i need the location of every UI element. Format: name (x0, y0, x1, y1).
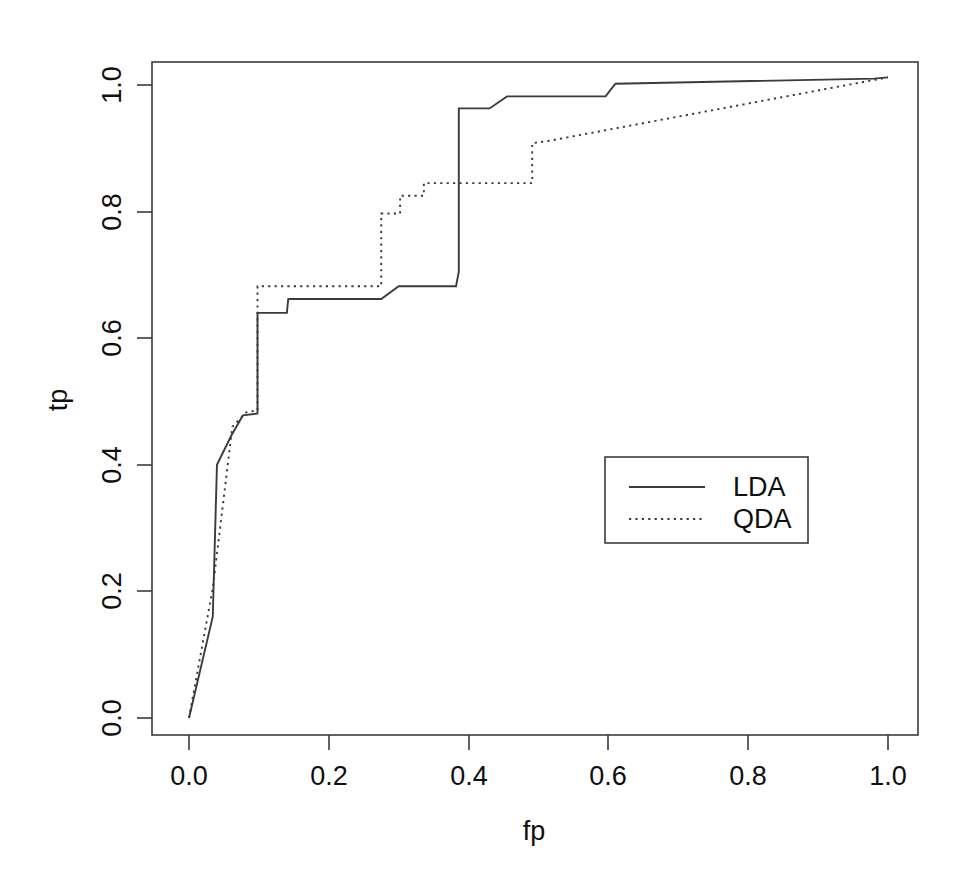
x-axis: 0.0 0.2 0.4 0.6 0.8 1.0 fp (170, 735, 907, 846)
x-tick-label: 1.0 (869, 761, 907, 791)
y-tick-label: 0.6 (97, 319, 127, 357)
y-tick-label: 0.8 (97, 193, 127, 231)
y-axis: 0.0 0.2 0.4 0.6 0.8 1.0 tp (43, 66, 152, 737)
legend: LDA QDA (605, 457, 808, 543)
x-tick-label: 0.0 (170, 761, 208, 791)
legend-label-lda: LDA (733, 472, 786, 502)
x-tick-label: 0.4 (450, 761, 488, 791)
y-tick-label: 0.0 (97, 699, 127, 737)
plot-frame (152, 62, 918, 735)
x-axis-title: fp (523, 816, 546, 846)
y-tick-label: 0.2 (97, 572, 127, 610)
legend-label-qda: QDA (733, 504, 792, 534)
series-line-lda (189, 77, 888, 718)
x-tick-label: 0.6 (589, 761, 627, 791)
y-tick-group (137, 85, 152, 718)
roc-chart-container: 0.0 0.2 0.4 0.6 0.8 1.0 fp 0.0 0.2 0.4 0… (0, 0, 967, 878)
y-tick-label: 0.4 (97, 446, 127, 484)
x-tick-group (189, 735, 888, 750)
x-tick-label: 0.8 (729, 761, 767, 791)
x-tick-label: 0.2 (310, 761, 348, 791)
series-line-qda (189, 77, 888, 718)
roc-plot-svg: 0.0 0.2 0.4 0.6 0.8 1.0 fp 0.0 0.2 0.4 0… (0, 0, 967, 878)
y-tick-label: 1.0 (97, 66, 127, 104)
y-axis-title: tp (43, 389, 73, 412)
